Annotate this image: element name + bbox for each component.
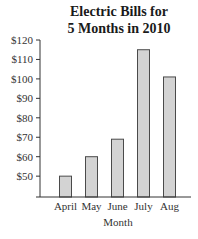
y-tick-label: $60 [17,151,34,163]
x-tick-label: May [81,200,102,212]
y-tick-label: $120 [11,34,34,46]
x-tick-label: July [134,200,153,212]
y-tick-label: $50 [17,170,34,182]
x-tick-label: Aug [160,200,179,212]
x-axis-title: Month [103,216,133,228]
bar-june [112,139,124,197]
y-tick-label: $90 [17,92,34,104]
bar-chart: $50$60$70$80$90$100$110$120 AprilMayJune… [0,0,198,239]
y-tick-label: $70 [17,131,34,143]
bar-aug [164,77,176,197]
bars [60,50,176,197]
y-tick-label: $100 [11,73,34,85]
x-tick-label: April [54,200,77,212]
bar-may [86,157,98,197]
x-axis: AprilMayJuneJulyAug [36,197,191,212]
bar-april [60,176,72,197]
x-tick-label: June [107,200,127,212]
y-axis: $50$60$70$80$90$100$110$120 [11,34,40,197]
bar-july [138,50,150,197]
y-tick-label: $110 [11,53,33,65]
y-tick-label: $80 [17,112,34,124]
